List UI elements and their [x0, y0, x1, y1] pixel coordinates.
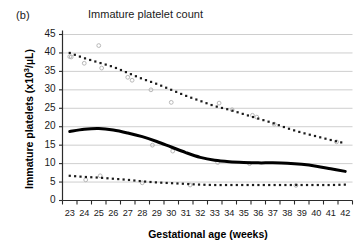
dot — [257, 184, 259, 186]
dot — [155, 83, 157, 85]
dot — [115, 67, 117, 69]
dot — [90, 176, 92, 178]
dot — [79, 176, 81, 178]
dot — [145, 79, 147, 81]
dot — [338, 184, 340, 186]
series-curve-1 — [70, 129, 346, 172]
dot — [247, 114, 249, 116]
dot — [190, 97, 192, 99]
dot — [262, 119, 264, 121]
dot — [279, 184, 281, 186]
dot — [220, 184, 222, 186]
dot — [200, 100, 202, 102]
dot — [170, 89, 172, 91]
dot — [101, 177, 103, 179]
dot — [96, 176, 98, 178]
dot — [247, 184, 249, 186]
dot — [185, 95, 187, 97]
dot — [69, 175, 71, 177]
dot — [230, 184, 232, 186]
plot-area — [0, 0, 361, 250]
dot — [319, 136, 321, 138]
dot — [209, 184, 211, 186]
dot — [284, 184, 286, 186]
dot — [324, 138, 326, 140]
scatter-point-16 — [171, 149, 175, 153]
dot — [333, 184, 335, 186]
dot — [317, 184, 319, 186]
dot — [301, 184, 303, 186]
dot — [69, 52, 71, 54]
dot — [139, 180, 141, 182]
scatter-point-9 — [217, 101, 221, 105]
scatter-point-2 — [82, 61, 86, 65]
dot — [144, 180, 146, 182]
dot — [283, 126, 285, 128]
dot — [214, 184, 216, 186]
dot — [74, 175, 76, 177]
dot — [112, 178, 114, 180]
dot — [309, 134, 311, 136]
dot — [322, 184, 324, 186]
dot — [226, 108, 228, 110]
scatter-point-6 — [130, 78, 134, 82]
dot — [225, 184, 227, 186]
dot — [205, 102, 207, 104]
dot — [293, 129, 295, 131]
scatter-point-21 — [140, 181, 144, 185]
dot — [274, 184, 276, 186]
series-dots-2 — [69, 175, 346, 186]
dot — [241, 184, 243, 186]
dot — [133, 179, 135, 181]
dot — [79, 56, 81, 58]
dot — [150, 81, 152, 83]
dot — [175, 91, 177, 93]
dot — [155, 181, 157, 183]
dot — [187, 183, 189, 185]
dot — [99, 62, 101, 64]
dot — [180, 93, 182, 95]
dot — [171, 182, 173, 184]
dot — [160, 85, 162, 87]
dot — [252, 184, 254, 186]
dot — [128, 179, 130, 181]
dot — [203, 184, 205, 186]
dot — [252, 116, 254, 118]
dot — [84, 57, 86, 59]
axis-lines — [63, 31, 353, 201]
dot — [176, 182, 178, 184]
dot — [328, 184, 330, 186]
scatter-point-3 — [97, 44, 101, 48]
dot — [267, 121, 269, 123]
dot — [125, 71, 127, 73]
dot — [295, 184, 297, 186]
dot — [236, 184, 238, 186]
dot — [257, 118, 259, 120]
dot — [106, 177, 108, 179]
dot — [182, 183, 184, 185]
scatter-point-5 — [126, 75, 130, 79]
dot — [242, 113, 244, 115]
dot — [263, 184, 265, 186]
dot — [94, 60, 96, 62]
dot — [166, 182, 168, 184]
scatter-point-4 — [100, 66, 104, 70]
dot — [74, 54, 76, 56]
dot — [195, 98, 197, 100]
dot — [210, 104, 212, 106]
dot — [273, 122, 275, 124]
dot — [330, 139, 332, 141]
dot — [303, 132, 305, 134]
dot — [120, 69, 122, 71]
dot — [123, 178, 125, 180]
dot — [130, 73, 132, 75]
x-tick-marks — [63, 201, 353, 205]
dot — [231, 110, 233, 112]
dot — [298, 131, 300, 133]
dot — [85, 176, 87, 178]
dot — [288, 128, 290, 130]
dot — [216, 106, 218, 108]
dot — [221, 107, 223, 109]
dot — [236, 111, 238, 113]
dot — [89, 59, 91, 61]
